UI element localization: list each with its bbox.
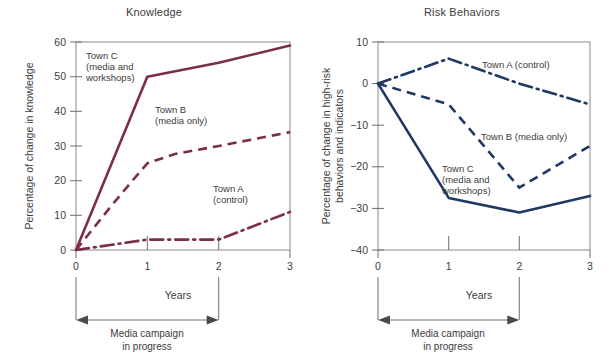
svg-text:(control): (control) (213, 194, 248, 205)
svg-text:Town C: Town C (442, 163, 474, 174)
svg-text:(media and: (media and (442, 174, 490, 185)
y-axis-title: Percentage of change in knowledge (23, 62, 35, 229)
y-tick-label-10: 10 (356, 36, 368, 48)
x-axis-title: Years (466, 289, 492, 301)
y-tick-label-minus-40: −40 (350, 244, 368, 256)
arrow-head-right-icon (207, 315, 219, 324)
svg-text:workshops): workshops) (441, 185, 491, 196)
y-tick-label-0: 0 (362, 77, 368, 89)
svg-text:Town A (control): Town A (control) (482, 59, 550, 70)
campaign-bracket (76, 277, 219, 320)
y-tick-label-30: 30 (54, 140, 66, 152)
chart-panel-risk-behaviors: Risk Behaviors 10 0 −10 −20 −30 −40 Perc… (308, 0, 616, 359)
campaign-caption-line2: in progress (122, 341, 171, 352)
x-axis-title: Years (165, 289, 191, 301)
campaign-caption-line1: Media campaign (411, 328, 484, 339)
y-tick-label-0: 0 (60, 244, 66, 256)
y-tick-label-50: 50 (54, 70, 66, 82)
series-label-town-b: Town B (media only) (481, 131, 567, 142)
arrow-head-left-icon (378, 315, 390, 324)
series-label-town-a: Town A (control) (213, 183, 248, 205)
x-tick-label-0: 0 (73, 260, 79, 272)
campaign-bracket (378, 277, 519, 320)
y-tick-label-minus-20: −20 (350, 160, 368, 172)
y-tick-label-60: 60 (54, 36, 66, 48)
svg-text:Town B: Town B (155, 104, 186, 115)
x-tick-label-1: 1 (144, 260, 150, 272)
y-tick-label-40: 40 (54, 105, 66, 117)
series-label-town-a: Town A (control) (482, 59, 550, 70)
campaign-caption-line1: Media campaign (110, 328, 183, 339)
svg-text:workshops): workshops) (85, 72, 135, 83)
x-tick-label-3: 3 (287, 260, 293, 272)
x-tick-label-0: 0 (375, 260, 381, 272)
y-tick-label-minus-30: −30 (350, 202, 368, 214)
two-panel-line-chart-figure: Knowledge 0 10 20 30 40 50 60 (0, 0, 616, 359)
risk-behaviors-plot-svg: 10 0 −10 −20 −30 −40 Percentage of chang… (308, 0, 616, 359)
svg-text:(media only): (media only) (155, 115, 207, 126)
y-tick-label-minus-10: −10 (350, 119, 368, 131)
y-tick-label-20: 20 (54, 174, 66, 186)
x-tick-label-2: 2 (216, 260, 222, 272)
svg-text:Town C: Town C (86, 50, 118, 61)
y-axis-title-line1: Percentage of change in high-risk (320, 67, 332, 224)
x-tick-label-1: 1 (446, 260, 452, 272)
y-tick-label-10: 10 (54, 209, 66, 221)
chart-panel-knowledge: Knowledge 0 10 20 30 40 50 60 (0, 0, 308, 359)
arrow-head-left-icon (76, 315, 88, 324)
svg-text:Town A: Town A (213, 183, 244, 194)
knowledge-plot-svg: 0 10 20 30 40 50 60 Percentage of change… (0, 0, 308, 359)
x-tick-label-3: 3 (587, 260, 593, 272)
campaign-caption-line2: in progress (423, 341, 472, 352)
x-tick-label-2: 2 (516, 260, 522, 272)
svg-text:(media and: (media and (86, 61, 134, 72)
svg-text:Town B (media only): Town B (media only) (481, 131, 567, 142)
y-axis-title-line2: behaviors and indicators (333, 89, 345, 203)
arrow-head-right-icon (507, 315, 519, 324)
